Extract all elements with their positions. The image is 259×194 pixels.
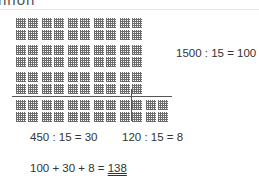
equation-sum: 100 + 30 + 8 = 138 [30, 162, 127, 174]
equation-left-part: 450 : 15 = 30 [30, 131, 97, 143]
hundred-block [94, 18, 116, 40]
hundred-block-below-line [42, 100, 64, 122]
heading-divider [0, 9, 259, 10]
hundred-block [16, 45, 38, 67]
hundred-block [68, 45, 90, 67]
horizontal-divider-line [12, 96, 172, 97]
hundred-block [68, 72, 90, 94]
hundred-block [42, 18, 64, 40]
hundred-block [94, 72, 116, 94]
vertical-divider-line [131, 89, 132, 121]
equation-sum-result: 138 [108, 162, 127, 174]
hundred-block [94, 45, 116, 67]
hundred-block-below-line [68, 100, 90, 122]
hundred-block-below-line [94, 100, 116, 122]
cropped-heading: nnon [0, 0, 35, 8]
hundred-block-below-line [16, 100, 38, 122]
equation-sum-prefix: 100 + 30 + 8 = [30, 162, 108, 174]
hundred-block [42, 72, 64, 94]
hundred-block [68, 18, 90, 40]
hundred-block [120, 18, 142, 40]
hundred-block [120, 45, 142, 67]
hundred-block [16, 18, 38, 40]
equation-right-part: 120 : 15 = 8 [122, 131, 183, 143]
equation-main: 1500 : 15 = 100 [176, 47, 256, 59]
hundred-block-below-line [146, 100, 168, 122]
hundred-block [42, 45, 64, 67]
hundred-block [16, 72, 38, 94]
